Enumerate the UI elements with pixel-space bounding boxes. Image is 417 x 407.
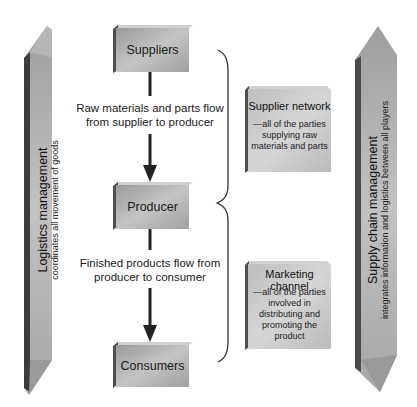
raw-materials-flow-line1: Raw materials and parts flow	[75, 101, 225, 115]
raw-materials-flow-line2: from supplier to producer	[75, 115, 225, 129]
logistics-pillar-text: Logistics management coordinates all mov…	[36, 100, 64, 320]
marketing-channel-desc-line: product	[248, 331, 331, 342]
supplier-network-description: —all of the parties supplying raw materi…	[248, 119, 331, 152]
marketing-channel-desc-line: —all of the parties	[248, 287, 331, 298]
consumers-label: Consumers	[116, 359, 189, 373]
arrow-producer-to-consumers	[143, 229, 157, 342]
supplier-network-desc-line: —all of the parties	[248, 119, 331, 130]
finished-products-flow-line2: producer to consumer	[72, 270, 228, 284]
logistics-pillar-title: Logistics management	[36, 100, 50, 320]
producer-label: Producer	[116, 200, 189, 214]
raw-materials-flow-text: Raw materials and parts flow from suppli…	[75, 101, 225, 129]
supplier-network-desc-line: supplying raw	[248, 130, 331, 141]
marketing-channel-description: —all of the parties involved in distribu…	[248, 287, 331, 342]
grouping-brace	[217, 50, 228, 362]
finished-products-flow-line1: Finished products flow from	[72, 256, 228, 270]
supplier-network-title: Supplier network	[248, 100, 331, 112]
marketing-channel-desc-line: promoting the	[248, 320, 331, 331]
marketing-channel-desc-line: distributing and	[248, 309, 331, 320]
suppliers-label: Suppliers	[116, 43, 189, 57]
supply-chain-pillar-text: Supply chain management integrates infor…	[366, 70, 394, 350]
finished-products-flow-text: Finished products flow from producer to …	[72, 256, 228, 284]
supply-chain-pillar-title: Supply chain management	[366, 70, 380, 350]
marketing-channel-desc-line: involved in	[248, 298, 331, 309]
supplier-network-desc-line: materials and parts	[248, 141, 331, 152]
supply-chain-pillar-subtitle: integrates information and logistics bet…	[380, 70, 391, 350]
logistics-pillar-subtitle: coordinates all movement of goods	[50, 100, 61, 320]
